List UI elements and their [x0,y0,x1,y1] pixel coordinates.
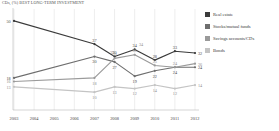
data-label: 13 [112,89,116,94]
x-axis-label: 2005 [50,116,59,121]
data-point [93,91,95,93]
data-label: 33 [173,44,177,49]
x-axis-label: 2008 [110,116,119,121]
series-line [14,21,195,60]
legend-swatch-savings [205,36,210,41]
data-point [13,77,15,79]
data-label: 22 [153,73,157,78]
data-label: 12 [133,91,137,96]
data-label: 30 [92,59,96,64]
data-point [93,43,95,45]
data-point [13,86,15,88]
data-point [174,50,176,52]
data-point [113,86,115,88]
data-point [113,61,115,63]
data-point [194,52,196,54]
data-label: 24 [173,60,177,65]
legend-label-stocks: Stocks/mutual funds [213,24,251,29]
data-label: 34 [139,42,143,47]
data-label: 29 [110,50,114,55]
data-label: 28 [153,53,157,58]
chart-container: CDs, (%) BEST LONG-TERM INVESTMENT 20032… [0,0,279,131]
x-axis-label: 2012 [191,116,200,121]
x-axis-label: 2011 [171,116,180,121]
legend-item-savings[interactable]: Savings accounts/CDs [205,33,279,45]
x-axis-label: 2006 [70,116,79,121]
x-axis-label: 2004 [30,116,39,121]
axis-lines [13,8,199,110]
data-label: 24 [173,70,177,75]
data-point [134,54,136,56]
data-label: 18 [92,80,96,85]
data-label: 13 [6,84,10,89]
legend-item-stocks[interactable]: Stocks/mutual funds [205,21,279,33]
legend-swatch-real-estate [205,12,210,17]
legend-swatch-stocks [205,24,210,29]
data-point [113,57,115,59]
data-point [154,84,156,86]
data-label: 14 [153,87,157,92]
data-point [174,66,176,68]
series-lines [14,21,195,92]
x-axis-label: 2009 [130,116,139,121]
x-axis-label: 2007 [90,116,99,121]
series-line [14,57,195,78]
data-label: 25 [153,58,157,63]
series-line [14,85,195,92]
data-point [13,80,15,82]
data-label: 12 [173,91,177,96]
legend-label-bonds: Bonds [213,48,225,53]
x-axis-label: 2003 [10,116,19,121]
data-label: 26 [198,61,202,66]
legend-swatch-bonds [205,48,210,53]
legend-label-savings: Savings accounts/CDs [213,36,254,41]
data-point [134,88,136,90]
data-point [194,66,196,68]
data-point [154,64,156,66]
data-label: 31 [133,48,137,53]
data-label: 50 [6,18,10,23]
legend-item-real-estate[interactable]: Real estate [205,9,279,21]
data-point [154,70,156,72]
data-point [134,75,136,77]
data-label: 16 [6,79,10,84]
data-label: 37 [92,37,96,42]
data-point [194,63,196,65]
legend-label-real-estate: Real estate [213,12,233,17]
data-point [174,88,176,90]
data-label: 10 [92,94,96,99]
data-point [93,77,95,79]
data-point [93,55,95,57]
data-label: 27 [112,64,116,69]
data-label: 32 [198,50,202,55]
data-label: 34 [133,42,137,47]
chart-legend: Real estate Stocks/mutual funds Savings … [205,9,279,57]
data-label: 14 [198,83,202,88]
data-point [13,20,15,22]
x-axis-label: 2010 [150,116,159,121]
data-label: 19 [133,78,137,83]
data-point [194,84,196,86]
legend-item-bonds[interactable]: Bonds [205,45,279,57]
series-points [13,20,196,93]
